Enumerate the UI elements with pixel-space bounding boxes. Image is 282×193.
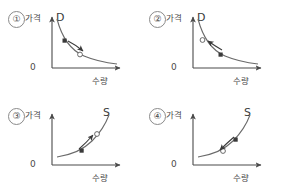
demand-curve [198,19,258,64]
panel-grid: ① 가격 수량 0 D ② 가격 수량 0 D [0,0,282,193]
marker-filled-square [63,39,67,43]
panel-3: ③ 가격 수량 0 S [0,97,141,193]
marker-filled-square [234,138,238,142]
marker-hollow-circle [95,132,100,137]
marker-filled-square [219,53,223,57]
movement-arrow [208,41,222,50]
marker-filled-square [80,149,84,153]
panel-4: ④ 가격 수량 0 S [141,97,282,193]
panel-1: ① 가격 수량 0 D [0,0,141,96]
panel-3-plot [0,97,141,193]
marker-hollow-circle [78,52,83,57]
marker-hollow-circle [200,38,205,43]
panel-4-plot [141,97,282,193]
panel-2: ② 가격 수량 0 D [141,0,282,96]
movement-arrow [220,137,234,150]
panel-1-plot [0,0,141,96]
panel-2-plot [141,0,282,96]
